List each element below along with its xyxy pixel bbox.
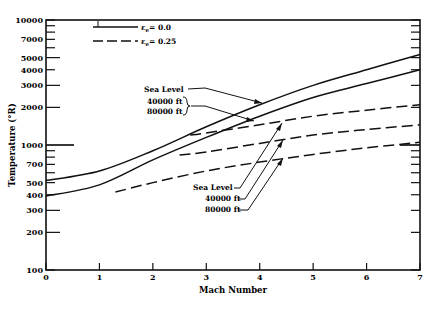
series-lines <box>46 54 420 196</box>
brace <box>183 97 190 115</box>
arrow-icon <box>254 99 262 104</box>
x-tick-label: 5 <box>310 272 316 282</box>
y-tick-label: 700 <box>26 159 43 169</box>
y-tick-label: 4000 <box>21 65 44 75</box>
x-tick-label: 6 <box>364 272 370 282</box>
plot-frame <box>46 20 420 270</box>
annot-40000-solid: 40000 ft <box>147 97 183 106</box>
arrow-icon <box>276 123 282 131</box>
x-tick-label: 0 <box>43 272 49 282</box>
leader-alt-solid <box>191 106 254 121</box>
annot-40000-dashed: 40000 ft <box>205 194 241 203</box>
series-line <box>115 142 420 192</box>
x-tick-label: 2 <box>150 272 156 282</box>
y-axis-title: Temperature (°R) <box>7 103 17 186</box>
y-tick-label: 10000 <box>15 15 43 25</box>
x-tick-label: 7 <box>417 272 423 282</box>
legend-solid-label: εe= 0.0 <box>141 23 171 33</box>
leader-sea-level-solid <box>188 88 262 103</box>
series-line <box>190 105 420 135</box>
annot-80000-solid: 80000 ft <box>147 107 183 116</box>
y-tick-label: 500 <box>26 178 43 188</box>
annot-sea-level-solid: Sea Level <box>144 85 184 94</box>
y-tick-label: 7000 <box>21 34 44 44</box>
y-tick-label: 3000 <box>21 80 44 90</box>
x-tick-label: 1 <box>97 272 103 282</box>
legend: εe= 0.0 εe= 0.25 <box>93 21 176 47</box>
y-tick-label: 100 <box>26 265 43 275</box>
leader-80000-dashed <box>238 158 283 210</box>
x-axis-ticks: 01234567 <box>43 263 423 282</box>
y-tick-label: 1000 <box>21 140 44 150</box>
x-tick-label: 4 <box>257 272 263 282</box>
legend-dashed-label: εe= 0.25 <box>141 37 176 47</box>
series-line <box>180 125 420 155</box>
y-tick-label: 400 <box>26 190 43 200</box>
x-tick-label: 3 <box>203 272 209 282</box>
y-tick-label: 5000 <box>21 53 44 63</box>
series-line <box>46 54 420 180</box>
annot-80000-dashed: 80000 ft <box>205 205 241 214</box>
y-tick-label: 300 <box>26 205 43 215</box>
leader-40000-dashed <box>238 140 283 199</box>
annotations-solid: Sea Level 40000 ft 80000 ft <box>144 85 262 122</box>
x-axis-title: Mach Number <box>199 285 268 295</box>
series-line <box>46 70 420 196</box>
annot-sea-level-dashed: Sea Level <box>193 183 233 192</box>
y-tick-label: 2000 <box>21 102 44 112</box>
temperature-vs-mach-chart: 1002003004005007001000200030004000500070… <box>0 0 438 310</box>
y-tick-label: 200 <box>26 227 43 237</box>
y-axis-ticks: 1002003004005007001000200030004000500070… <box>15 15 420 275</box>
